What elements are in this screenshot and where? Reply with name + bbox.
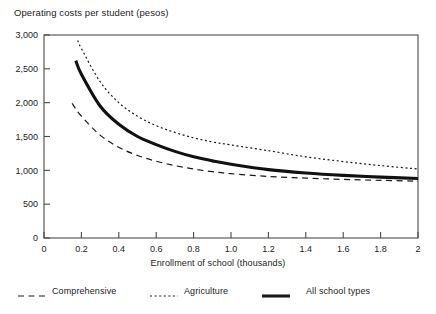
data-series-layer <box>72 40 418 181</box>
y-axis-ticks: 05001,0001,5002,0002,5003,000 <box>15 30 50 243</box>
x-tick-label: 0.6 <box>150 244 163 254</box>
legend-label: Agriculture <box>184 286 228 296</box>
series-line <box>72 103 418 181</box>
y-tick-label: 500 <box>23 199 38 209</box>
legend-label: All school types <box>306 286 370 296</box>
series-line <box>78 40 418 169</box>
x-tick-label: 1.6 <box>337 244 350 254</box>
y-tick-label: 2,500 <box>15 64 38 74</box>
y-tick-label: 0 <box>33 233 38 243</box>
x-tick-label: 2 <box>415 244 420 254</box>
legend-swatch <box>262 287 290 297</box>
x-axis-ticks: 00.20.40.60.81.01.21.41.61.82 <box>41 232 420 254</box>
x-tick-label: 1.8 <box>374 244 387 254</box>
chart-figure: Operating costs per student (pesos) 0500… <box>0 0 436 314</box>
legend-swatch <box>150 287 178 297</box>
y-tick-label: 3,000 <box>15 30 38 40</box>
x-tick-label: 0.8 <box>187 244 200 254</box>
x-tick-label: 1.4 <box>300 244 313 254</box>
legend-label: Comprehensive <box>52 286 116 296</box>
x-tick-label: 0.2 <box>75 244 88 254</box>
y-tick-label: 2,000 <box>15 98 38 108</box>
plot-frame <box>44 35 418 238</box>
x-tick-label: 0.4 <box>113 244 126 254</box>
y-tick-label: 1,500 <box>15 132 38 142</box>
series-line <box>76 61 418 179</box>
legend-swatch <box>18 287 46 297</box>
y-tick-label: 1,000 <box>15 166 38 176</box>
x-tick-label: 0 <box>41 244 46 254</box>
x-tick-label: 1.2 <box>262 244 275 254</box>
x-axis-title: Enrollment of school (thousands) <box>0 258 436 268</box>
x-tick-label: 1.0 <box>225 244 238 254</box>
